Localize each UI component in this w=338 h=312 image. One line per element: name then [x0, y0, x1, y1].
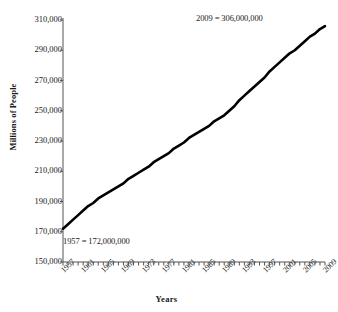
population-line-series: [63, 26, 325, 229]
annotation-2009: 2009 = 306,000,000: [196, 13, 263, 23]
axes-lines: [63, 18, 325, 262]
annotation-1957: 1957 = 172,000,000: [63, 236, 130, 246]
